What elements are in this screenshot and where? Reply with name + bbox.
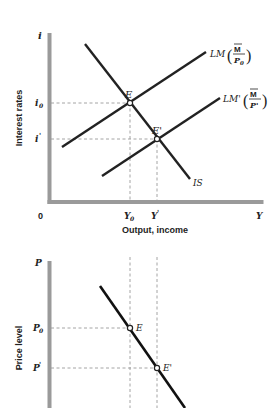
- is-curve: [85, 44, 190, 179]
- svg-text:': ': [39, 131, 41, 140]
- lm-label: LM ( M P 0 ): [209, 44, 251, 66]
- x-axis-output: [48, 200, 264, 204]
- ad-curve: [100, 286, 185, 408]
- is-lm-ad-diagram: E E' LM ( M P 0 ) LM' ( M P' ) IS i i 0: [0, 0, 280, 408]
- is-label: IS: [192, 178, 203, 188]
- svg-text:0: 0: [39, 327, 44, 334]
- y-axis-title-interest-rates: Interest rates: [14, 90, 24, 147]
- ad-point-label-e: E: [135, 323, 143, 333]
- svg-text:P': P': [249, 100, 258, 110]
- tick-p0: P 0: [32, 323, 44, 334]
- y-axis-title-price-level: Price level: [14, 326, 24, 371]
- ad-point-e-prime: [154, 365, 159, 370]
- lm-curve: [62, 52, 206, 147]
- svg-text:': ': [157, 208, 159, 217]
- equilibrium-point-e-prime: [154, 136, 159, 141]
- equilibrium-point-e: [127, 100, 132, 105]
- tick-y0: Y 0: [124, 211, 135, 222]
- tick-i0: i 0: [35, 98, 44, 109]
- lm-prime-label: LM' ( M P' ): [222, 89, 267, 110]
- point-label-e-prime: E': [151, 125, 162, 136]
- ad-point-label-e-prime: E': [162, 363, 172, 373]
- svg-text:M: M: [234, 45, 241, 54]
- y-axis-price: [48, 261, 52, 408]
- ad-point-e: [127, 325, 132, 330]
- svg-text:M: M: [250, 90, 257, 99]
- svg-text:': ': [39, 360, 41, 369]
- y-axis-symbol-p: P: [34, 258, 42, 268]
- svg-text:0: 0: [130, 215, 135, 222]
- svg-text:(: (: [227, 47, 232, 65]
- tick-y: Y: [256, 211, 264, 221]
- svg-text:LM': LM': [222, 94, 241, 104]
- x-axis-title-output-income: Output, income: [122, 225, 188, 235]
- tick-i-prime: i ': [35, 131, 41, 144]
- y-axis-interest: [48, 33, 52, 204]
- y-axis-symbol-i: i: [38, 30, 42, 41]
- tick-p-prime: P ': [32, 360, 41, 373]
- is-lm-panel: E E' LM ( M P 0 ) LM' ( M P' ) IS i i 0: [14, 30, 267, 235]
- svg-text:0: 0: [39, 102, 44, 109]
- svg-text:LM: LM: [209, 49, 226, 59]
- svg-text:(: (: [243, 92, 248, 110]
- svg-text:0: 0: [240, 60, 244, 66]
- tick-y-prime: Y ': [151, 208, 159, 221]
- svg-text:): ): [262, 92, 267, 110]
- point-label-e: E: [124, 89, 133, 100]
- origin-label: 0: [38, 211, 43, 221]
- svg-text:): ): [246, 47, 251, 65]
- ad-panel: E E' P P 0 P ' Price level: [14, 257, 185, 408]
